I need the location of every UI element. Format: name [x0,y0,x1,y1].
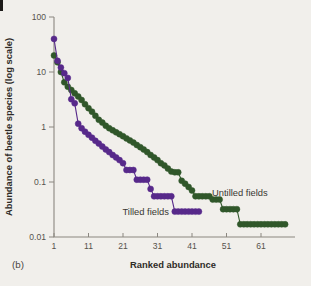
data-point [58,65,64,71]
data-series-layer [51,36,288,227]
x-tick-label: 61 [256,241,266,251]
data-point [72,100,78,106]
y-tick-label: 1 [41,122,46,132]
data-point [234,206,240,212]
tilled-fields-label: Tilled fields [122,206,169,217]
data-point [120,160,126,166]
x-tick-label: 31 [153,241,163,251]
data-point [282,221,288,227]
data-point [51,36,57,42]
x-tick-label: 41 [187,241,197,251]
y-tick-label: 10 [36,67,46,77]
data-point [189,188,195,194]
data-point [130,167,136,173]
untilled-fields-label: Untilled fields [212,187,268,198]
data-point [148,186,154,192]
data-point [144,177,150,183]
x-tick-label: 21 [118,241,128,251]
data-point [65,75,71,81]
scan-edge-artifact [0,0,3,11]
y-tick-label: 100 [32,12,47,22]
data-point [168,193,174,199]
data-point [196,209,202,215]
figure-label: (b) [12,259,24,270]
y-tick-label: 0.01 [29,232,46,242]
data-point [175,169,181,175]
axis-lines [54,17,295,237]
rank-abundance-chart: 1001010.10.011112131415161 Untilled fiel… [0,0,311,286]
x-tick-label: 11 [84,241,93,251]
x-tick-label: 1 [52,241,57,251]
y-tick-label: 0.1 [34,177,46,187]
x-axis-title: Ranked abundance [130,259,216,270]
x-tick-label: 51 [222,241,232,251]
y-axis-title: Abundance of beetle species (log scale) [3,38,14,216]
data-point [55,58,61,64]
